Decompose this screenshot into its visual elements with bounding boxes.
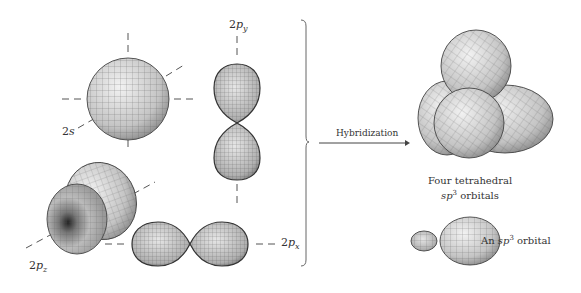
right-brace — [301, 20, 309, 266]
hybridization-arrow — [319, 140, 410, 146]
orbital-2s — [62, 33, 196, 150]
tetrahedral-caption: Four tetrahedral sp3 orbitals — [415, 174, 525, 202]
hybridization-label: Hybridization — [336, 128, 398, 138]
tetrahedral-caption-line2: sp3 orbitals — [415, 187, 525, 202]
label-2py: 2py — [229, 18, 248, 33]
tetrahedral-sp3-cluster — [418, 30, 553, 158]
orbital-2px — [105, 222, 278, 266]
label-2s: 2s — [62, 125, 75, 138]
tetrahedral-caption-line1: Four tetrahedral — [415, 174, 525, 187]
orbital-2py — [214, 36, 260, 206]
label-2pz: 2pz — [29, 259, 47, 274]
label-2px: 2px — [281, 236, 300, 251]
single-orbital-caption: An sp3 orbital — [481, 234, 551, 246]
